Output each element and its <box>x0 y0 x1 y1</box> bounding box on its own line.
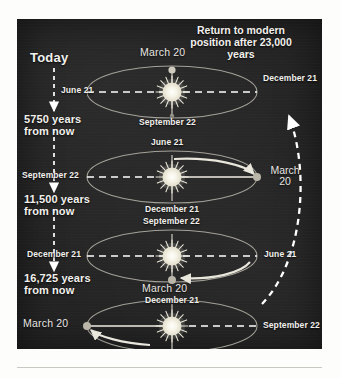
orbit-16725-label-left: March 20 <box>23 318 68 330</box>
orbit-5750-label-right-line-2: 20 <box>264 176 306 187</box>
timeline-step-1-line-1: 5750 years <box>24 113 81 125</box>
orbit-5750-label-top: June 21 <box>151 138 183 148</box>
caption-line-2: position after 23,000 <box>165 36 317 48</box>
caption-line-3: years <box>165 48 317 60</box>
orbit-marker-top <box>168 66 175 73</box>
orbit-today-label-top: March 20 <box>140 47 185 59</box>
orbit-marker-right <box>253 173 261 181</box>
orbit-today-label-left: June 21 <box>61 86 93 96</box>
figure-root: Return to modern position after 23,000 y… <box>0 0 341 378</box>
precession-arrow-4 <box>91 330 150 345</box>
orbit-11500-label-right: June 21 <box>264 250 296 260</box>
orbit-11500-label-bottom: March 20 <box>142 283 187 295</box>
orbit-group-16725 <box>83 300 257 349</box>
orbit-5750-label-right: March 20 <box>264 165 306 187</box>
orbit-group-11500 <box>87 230 257 284</box>
orbit-group-5750 <box>87 151 261 203</box>
precession-arrow-3 <box>181 262 250 278</box>
orbit-11500-label-left: December 21 <box>27 250 81 260</box>
timeline-step-2: 11,500 years from now <box>24 193 90 218</box>
caption-line-1: Return to modern <box>165 24 317 36</box>
orbit-today-label-bottom: September 22 <box>139 118 196 128</box>
diagram-panel: Return to modern position after 23,000 y… <box>17 19 322 349</box>
footer-divider <box>17 367 322 368</box>
timeline-step-3: 16,725 years from now <box>24 272 91 297</box>
timeline-step-2-line-2: from now <box>24 205 90 217</box>
timeline-step-1-line-2: from now <box>24 125 81 137</box>
timeline-step-3-line-1: 16,725 years <box>24 272 91 284</box>
timeline-step-2-line-1: 11,500 years <box>24 193 90 205</box>
orbit-16725-label-right: September 22 <box>263 321 320 331</box>
orbit-marker-left <box>83 322 91 330</box>
orbit-16725-label-top: December 21 <box>145 296 199 306</box>
timeline-step-1: 5750 years from now <box>24 113 81 138</box>
orbit-5750-label-bottom: December 21 <box>145 205 199 215</box>
return-cycle-arrow <box>262 116 301 304</box>
figure-caption: Return to modern position after 23,000 y… <box>165 24 317 60</box>
orbit-today-label-right: December 21 <box>263 74 317 84</box>
orbit-group-today <box>87 66 257 118</box>
timeline-step-3-line-2: from now <box>24 284 91 296</box>
orbit-11500-label-top: September 22 <box>143 217 200 227</box>
orbit-5750-label-left: September 22 <box>22 171 79 181</box>
timeline-today-label: Today <box>30 51 68 66</box>
